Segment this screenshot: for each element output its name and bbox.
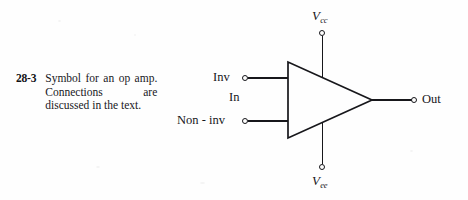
non-inverting-input-label: Non - inv: [177, 113, 225, 127]
vee-label-base: V: [312, 173, 320, 188]
vee-label-subscript: ee: [320, 180, 327, 190]
figure-caption-text: Symbol for an op amp. Connections are di…: [45, 72, 157, 113]
figure-container: 28-3 Symbol for an op amp. Connections a…: [0, 0, 468, 200]
output-label: Out: [422, 92, 441, 106]
scan-artifact: [134, 34, 136, 36]
output-wire: [370, 99, 412, 101]
input-group-label: In: [229, 90, 239, 104]
figure-number: 28-3: [16, 72, 45, 86]
scan-artifact: [200, 182, 205, 184]
scan-artifact: [410, 150, 413, 152]
op-amp-triangle-body: [284, 56, 376, 144]
vee-label: Vee: [312, 173, 327, 189]
scan-artifact: [96, 166, 100, 168]
figure-caption-block: 28-3 Symbol for an op amp. Connections a…: [16, 72, 176, 113]
vcc-label-subscript: cc: [320, 15, 327, 25]
triangle-outline: [288, 62, 372, 138]
vcc-label-base: V: [312, 8, 320, 23]
scan-artifact: [58, 20, 61, 22]
vee-terminal-circle[interactable]: [319, 164, 325, 170]
vcc-label: Vcc: [312, 8, 327, 24]
inverting-input-label: Inv: [213, 70, 230, 84]
output-terminal-circle[interactable]: [411, 97, 417, 103]
